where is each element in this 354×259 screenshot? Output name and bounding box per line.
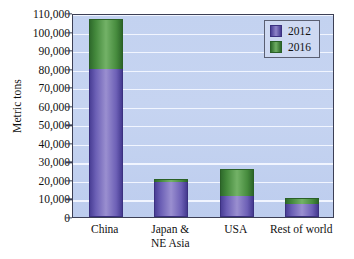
bar-group	[220, 169, 254, 217]
x-axis-label: China	[91, 223, 118, 237]
bar-group	[154, 179, 188, 217]
y-axis-tick-mark	[66, 199, 72, 200]
y-axis-tick-label: 40,000	[0, 138, 70, 150]
y-axis-tick-mark	[66, 13, 72, 14]
y-axis-tick-label: 10,000	[0, 193, 70, 205]
bar-segment-2012	[220, 196, 254, 217]
bar-group	[89, 19, 123, 217]
bar-chart: Metric tons 110,000100,00090,00080,00070…	[0, 0, 354, 259]
bar-group	[285, 198, 319, 217]
y-axis-tick-mark	[66, 125, 72, 126]
x-axis-label-line: China	[91, 223, 118, 237]
y-axis-tick-mark	[66, 106, 72, 107]
legend-swatch-2012-icon	[270, 25, 282, 37]
x-axis-label-line: Rest of world	[270, 223, 333, 237]
legend-label-2012: 2012	[288, 25, 311, 37]
y-axis-tick-mark	[66, 50, 72, 51]
y-axis-tick-label: 60,000	[0, 101, 70, 113]
y-axis-tick-mark	[66, 32, 72, 33]
x-axis-label-line: NE Asia	[151, 237, 190, 251]
bar-segment-2012	[154, 182, 188, 217]
chart-legend: 2012 2016	[264, 20, 320, 58]
y-axis-tick-mark	[66, 180, 72, 181]
bar-segment-2016	[220, 169, 254, 195]
legend-swatch-2016-icon	[270, 41, 282, 53]
x-axis-label: USA	[224, 223, 247, 237]
legend-label-2016: 2016	[288, 41, 311, 53]
y-axis-tick-label: 50,000	[0, 119, 70, 131]
bar-segment-2016	[89, 19, 123, 69]
y-axis-tick-mark	[66, 162, 72, 163]
y-axis-tick-label: 70,000	[0, 82, 70, 94]
bar-segment-2012	[89, 69, 123, 217]
y-axis-tick-label: 20,000	[0, 175, 70, 187]
y-axis-tick-mark	[66, 88, 72, 89]
y-axis-tick-mark	[66, 217, 72, 218]
x-axis-label: Rest of world	[270, 223, 333, 237]
y-axis-tick-label: 30,000	[0, 156, 70, 168]
y-axis-tick-label: 100,000	[0, 27, 70, 39]
y-axis-tick-label: 0	[0, 212, 70, 224]
x-axis-label: Japan &NE Asia	[151, 223, 190, 250]
bar-segment-2012	[285, 204, 319, 217]
y-axis-tick-mark	[66, 143, 72, 144]
legend-item-2012: 2012	[270, 25, 311, 37]
x-axis-label-line: Japan &	[151, 223, 190, 237]
x-axis-label-line: USA	[224, 223, 247, 237]
y-axis-tick-label: 80,000	[0, 64, 70, 76]
y-axis-tick-mark	[66, 69, 72, 70]
y-axis-tick-label: 110,000	[0, 8, 70, 20]
y-axis-tick-label: 90,000	[0, 45, 70, 57]
legend-item-2016: 2016	[270, 41, 311, 53]
